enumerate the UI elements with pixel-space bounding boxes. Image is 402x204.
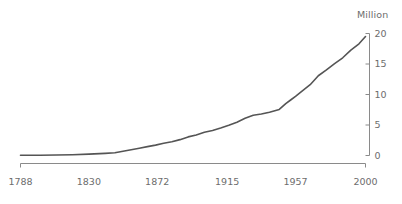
- y-axis-tick-label: 5: [375, 119, 397, 130]
- series-line-population: [21, 37, 366, 156]
- x-axis-tick-label: 2000: [346, 176, 386, 187]
- y-axis-tick-label: 15: [375, 58, 397, 69]
- series-group: [21, 37, 366, 156]
- y-axis-tick-label: 20: [375, 28, 397, 39]
- population-line-chart: Million 05101520 17881830187219151957200…: [0, 0, 402, 204]
- axes-group: [21, 34, 370, 168]
- x-axis-tick-label: 1788: [1, 176, 41, 187]
- x-axis-tick-label: 1872: [137, 176, 177, 187]
- y-axis-tick-label: 0: [375, 150, 397, 161]
- x-axis-tick-label: 1957: [276, 176, 316, 187]
- x-axis-tick-label: 1830: [69, 176, 109, 187]
- y-axis-ticks: [366, 64, 370, 125]
- chart-plot-area: [0, 0, 402, 204]
- x-axis-tick-label: 1915: [207, 176, 247, 187]
- x-axis-line: [21, 164, 366, 168]
- y-axis-tick-label: 10: [375, 89, 397, 100]
